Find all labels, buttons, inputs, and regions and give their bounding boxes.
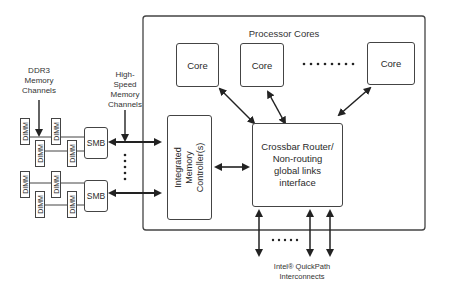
ddr3-line-2: Memory xyxy=(16,76,62,86)
dimm-module: DIMM xyxy=(20,171,30,198)
core-box-1: Core xyxy=(176,43,219,87)
smb-box-2: SMB xyxy=(84,180,108,212)
dimm-module: DIMM xyxy=(35,140,45,167)
smb-box-1: SMB xyxy=(84,127,108,159)
qpi-line-1: Intel® QuickPath xyxy=(262,262,342,272)
crossbar-line-3: global links xyxy=(274,165,321,177)
core-label: Core xyxy=(381,58,402,69)
memory-controller-label: Integrated Memory Controller(s) xyxy=(173,143,206,193)
hs-line-1: High- xyxy=(102,70,148,80)
quickpath-label: Intel® QuickPath Interconnects xyxy=(262,262,342,282)
dimm-module: DIMM xyxy=(51,118,61,145)
dimm-module: DIMM xyxy=(67,191,77,218)
core-box-3: Core xyxy=(367,42,415,85)
dimm-module: DIMM xyxy=(51,171,61,198)
crossbar-router-box: Crossbar Router/ Non-routing global link… xyxy=(252,123,343,207)
hs-line-3: Memory xyxy=(102,90,148,100)
ddr3-line-1: DDR3 xyxy=(16,66,62,76)
crossbar-line-4: interface xyxy=(279,177,315,189)
ddr3-line-3: Channels xyxy=(16,86,62,96)
ddr3-channels-label: DDR3 Memory Channels xyxy=(16,66,62,96)
hs-line-2: Speed xyxy=(102,80,148,90)
crossbar-line-2: Non-routing xyxy=(273,153,323,165)
hs-line-4: Channels xyxy=(102,100,148,110)
smb-label: SMB xyxy=(87,191,105,201)
memory-controller-box: Integrated Memory Controller(s) xyxy=(167,115,212,220)
core-label: Core xyxy=(252,60,273,71)
dimm-module: DIMM xyxy=(20,118,30,145)
qpi-line-2: Interconnects xyxy=(262,272,342,282)
smb-label: SMB xyxy=(87,138,105,148)
crossbar-line-1: Crossbar Router/ xyxy=(261,141,333,153)
core-label: Core xyxy=(187,60,208,71)
core-box-2: Core xyxy=(240,43,284,87)
high-speed-channels-label: High- Speed Memory Channels xyxy=(102,70,148,110)
dimm-module: DIMM xyxy=(35,191,45,218)
processor-cores-title: Processor Cores xyxy=(143,28,425,39)
dimm-module: DIMM xyxy=(67,140,77,167)
